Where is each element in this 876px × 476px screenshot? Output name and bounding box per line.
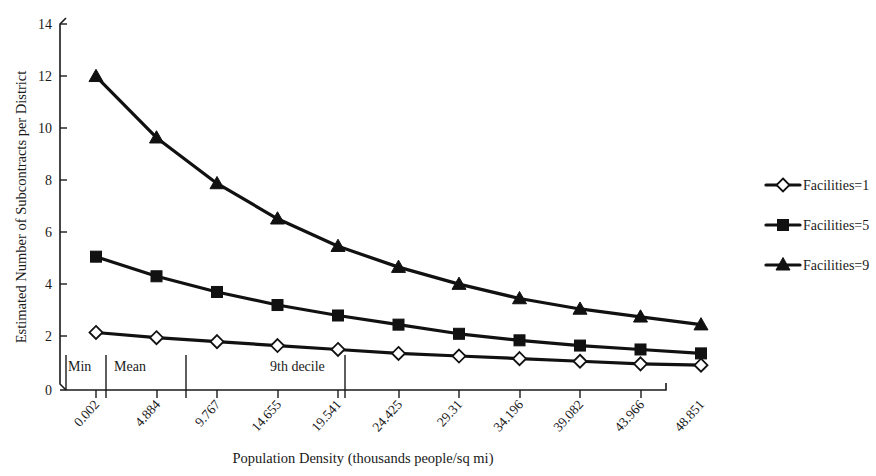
y-tick-label: 12 [38,69,52,84]
y-axis-ticks: 14 12 10 8 6 4 2 0 [38,17,67,398]
y-tick-label: 10 [38,121,52,136]
annotation-mean: Mean [114,359,146,374]
legend-item-facilities-9[interactable]: Facilities=9 [766,258,869,274]
y-tick-label: 8 [45,173,52,188]
y-tick-label: 2 [45,329,52,344]
data-point-square [151,271,162,282]
x-tick-label: 34.196 [490,397,526,435]
data-point-diamond [271,339,284,352]
x-tick-label: 43.966 [611,397,647,435]
x-axis-ticks [96,390,641,398]
data-point-diamond [513,352,526,365]
y-axis-line [60,18,66,390]
x-axis-tick-labels: 0.002 4.884 9.767 14.655 19.541 24.425 2… [71,397,707,435]
data-point-diamond [392,347,405,360]
data-point-diamond [332,343,345,356]
data-point-diamond [695,359,708,372]
x-tick-label: 39.082 [550,397,586,435]
data-point-diamond [634,357,647,370]
data-point-diamond [90,326,103,339]
data-point-square [393,319,404,330]
x-tick-label: 48.851 [671,397,707,435]
y-tick-label: 0 [45,383,52,398]
x-tick-label: 14.655 [248,397,284,435]
x-tick-label: 4.884 [132,397,164,430]
y-tick-label: 6 [45,225,52,240]
x-tick-label: 9.767 [192,397,224,430]
legend-label: Facilities=1 [803,178,869,193]
annotation-ninth-decile: 9th decile [270,359,325,374]
data-point-triangle [89,69,103,81]
data-point-square [514,335,525,346]
data-point-diamond [211,335,224,348]
series-line [96,76,701,324]
series-facilities-9 [89,69,708,330]
data-point-square [696,348,707,359]
data-point-square [212,286,223,297]
legend: Facilities=1 Facilities=5 Facilities=9 [766,178,869,273]
annotation-min: Min [68,359,91,374]
data-point-diamond [453,350,466,363]
data-point-square [333,310,344,321]
legend-item-facilities-5[interactable]: Facilities=5 [766,218,869,233]
line-chart: Estimated Number of Subcontracts per Dis… [0,0,876,476]
x-tick-label: 0.002 [71,397,102,430]
diamond-icon [777,179,790,192]
data-point-square [272,300,283,311]
x-axis-label: Population Density (thousands people/sq … [233,450,494,467]
x-tick-label: 19.541 [308,397,344,435]
chart-page: Estimated Number of Subcontracts per Dis… [0,0,876,476]
legend-label: Facilities=5 [803,218,869,233]
legend-item-facilities-1[interactable]: Facilities=1 [766,178,869,193]
series-layer [89,69,708,371]
y-axis-label: Estimated Number of Subcontracts per Dis… [13,71,29,344]
data-point-diamond [574,355,587,368]
y-tick-label: 14 [38,17,52,32]
legend-label: Facilities=9 [803,258,869,273]
square-icon [778,220,789,231]
data-point-square [454,328,465,339]
x-tick-label: 29.31 [434,397,465,430]
x-tick-label: 24.425 [369,397,405,435]
data-point-triangle [271,212,285,224]
data-point-square [575,340,586,351]
data-point-square [91,251,102,262]
x-axis-line [60,383,666,390]
data-point-square [635,344,646,355]
data-point-diamond [150,331,163,344]
y-tick-label: 4 [45,277,52,292]
